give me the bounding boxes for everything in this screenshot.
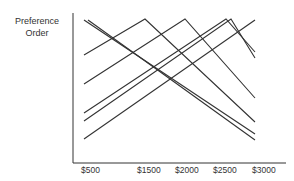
x-tick-label: $3000	[252, 165, 276, 175]
x-tick-label: $1500	[137, 165, 161, 175]
chart-plot-area	[0, 0, 294, 181]
series-line-1	[84, 20, 255, 134]
x-tick-label: $2500	[213, 165, 237, 175]
series-line-5	[84, 19, 255, 113]
series-lines	[84, 19, 255, 140]
series-line-4	[84, 19, 255, 98]
x-tick-label: $2000	[175, 165, 199, 175]
series-line-3	[84, 19, 255, 122]
series-line-6	[84, 19, 255, 121]
x-tick-label: $500	[81, 165, 100, 175]
